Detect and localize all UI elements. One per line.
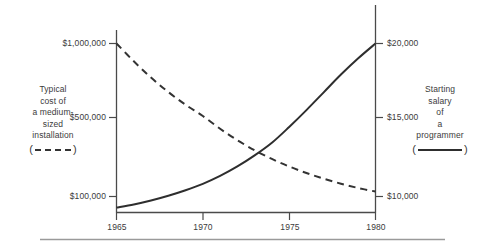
right-tick-label-10000: $10,000: [387, 191, 457, 201]
left-tick-label-100000: $100,000: [36, 191, 106, 201]
chart-figure: Typical cost of a medium- sized installa…: [0, 0, 485, 249]
x-tick-label-1980: 1980: [355, 222, 397, 232]
right-axis-caption-line-2: salary: [398, 96, 482, 108]
series-line-programmer-salary: [117, 44, 376, 208]
solid-line-swatch: [418, 149, 462, 151]
legend-paren-close-left: ): [73, 144, 77, 155]
dashed-line-swatch: [35, 149, 71, 151]
left-axis-caption-line-1: Typical: [6, 84, 100, 96]
left-tick-label-500000: $500,000: [36, 112, 106, 122]
right-tick-label-20000: $20,000: [387, 38, 457, 48]
legend-paren-close-right: ): [464, 144, 468, 155]
left-axis-caption-line-5: installation: [6, 130, 100, 142]
legend-paren-open-right: (: [412, 144, 416, 155]
left-axis-caption-line-2: cost of: [6, 96, 100, 108]
right-tick-label-15000: $15,000: [387, 112, 457, 122]
x-tick-label-1965: 1965: [96, 222, 138, 232]
right-axis-caption-line-5: programmer: [398, 130, 482, 142]
legend-installation-cost: ( ): [6, 144, 100, 156]
x-tick-label-1970: 1970: [182, 222, 224, 232]
legend-programmer-salary: ( ): [398, 144, 482, 156]
right-axis-caption-line-1: Starting: [398, 84, 482, 96]
x-tick-label-1975: 1975: [269, 222, 311, 232]
left-tick-label-1000000: $1,000,000: [36, 38, 106, 48]
legend-paren-open-left: (: [29, 144, 33, 155]
series-line-installation-cost: [117, 44, 376, 192]
